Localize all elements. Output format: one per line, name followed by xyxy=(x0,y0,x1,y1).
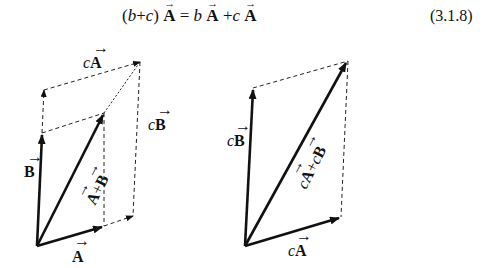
label-cB: cB xyxy=(227,132,245,149)
svg-text:→: → xyxy=(74,232,90,249)
label-cB: cB xyxy=(148,116,166,133)
label-cA: cA xyxy=(83,54,102,71)
right-figure: cB → cA → cA+cB → → xyxy=(227,61,348,259)
svg-text:→: → xyxy=(157,101,173,118)
svg-text:→: → xyxy=(93,39,109,56)
label-cA: cA xyxy=(288,242,307,259)
svg-text:→: → xyxy=(235,117,251,134)
svg-text:→: → xyxy=(27,148,43,165)
vector-A xyxy=(37,227,102,246)
svg-text:→: → xyxy=(296,227,312,244)
vector-cA-plus-cB xyxy=(245,63,346,246)
label-B: B xyxy=(24,163,35,180)
left-figure: B → A → cA → cB → A+B → → xyxy=(24,39,173,265)
vector-cB xyxy=(245,90,253,246)
label-cA-plus-cB: cA+cB → → xyxy=(281,129,333,191)
label-A: A xyxy=(72,248,84,265)
vector-diagrams: B → A → cA → cB → A+B → → cB → cA → cA+c… xyxy=(0,0,490,268)
